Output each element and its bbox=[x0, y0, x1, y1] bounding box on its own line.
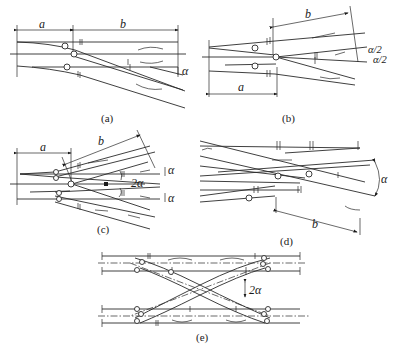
angle-middle-label: 2α bbox=[131, 176, 144, 190]
panel-caption: (b) bbox=[282, 112, 295, 125]
turnout-diagram: a b α (a) bbox=[0, 0, 400, 355]
dim-a-label: a bbox=[40, 140, 46, 154]
angle-lower-label: α bbox=[168, 191, 175, 205]
angle-label: α bbox=[381, 172, 388, 186]
dim-a-label: a bbox=[39, 17, 45, 31]
dim-b-label: b bbox=[120, 17, 126, 31]
panel-caption: (d) bbox=[280, 235, 293, 248]
panel-caption: (c) bbox=[97, 223, 110, 236]
angle-label: 2α bbox=[249, 283, 262, 297]
dim-b-label: b bbox=[305, 7, 311, 21]
panel-c-three-way-turnout: a b α 2α α (c) bbox=[10, 130, 175, 236]
panel-b-symmetric-turnout: b a α/2 α/2 (b) bbox=[202, 6, 387, 125]
panel-e-scissors-crossover: 2α (e) bbox=[98, 252, 310, 344]
panel-d-crossover: b α (d) bbox=[200, 141, 388, 248]
dim-b-label: b bbox=[312, 217, 318, 231]
angle-upper-label: α bbox=[168, 163, 175, 177]
panel-a-single-turnout: a b α (a) bbox=[10, 17, 189, 125]
panel-caption: (e) bbox=[196, 331, 209, 344]
angle-lower-label: α/2 bbox=[373, 54, 387, 65]
dim-b-label: b bbox=[98, 134, 104, 148]
dim-a-label: a bbox=[238, 80, 244, 94]
angle-label: α bbox=[182, 64, 189, 78]
panel-caption: (a) bbox=[101, 112, 114, 125]
